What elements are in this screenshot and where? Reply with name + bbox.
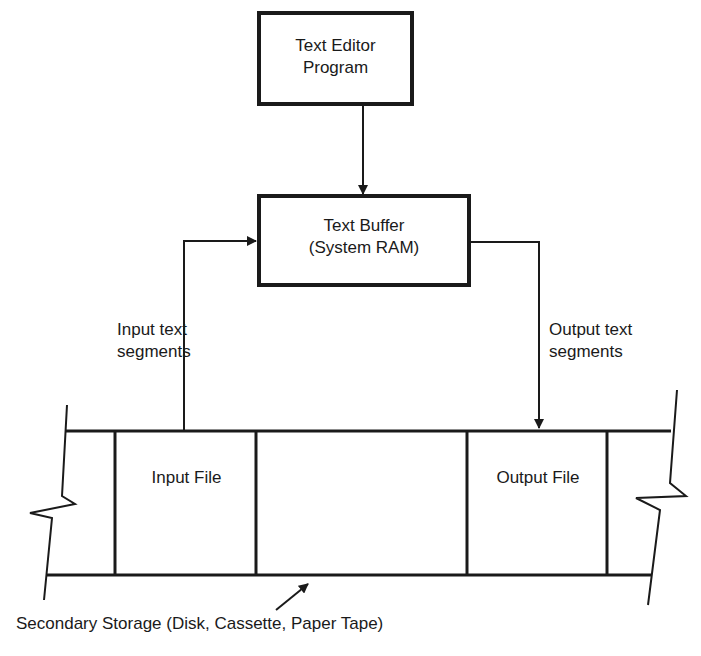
input-segments-line2: segments <box>117 341 191 363</box>
storage-pointer-arrow <box>276 584 308 610</box>
input-segments-arrow <box>184 241 256 430</box>
output-segments-arrow <box>469 242 539 428</box>
output-file-label: Output File <box>469 467 607 489</box>
buffer-label-line1: Text Buffer <box>259 215 469 237</box>
output-segments-line2: segments <box>549 341 632 363</box>
output-segments-label: Output text segments <box>549 319 632 363</box>
output-segments-line1: Output text <box>549 319 632 341</box>
right-break-mark <box>636 390 686 605</box>
input-segments-line1: Input text <box>117 319 191 341</box>
left-break-mark <box>30 405 75 600</box>
input-file-label: Input File <box>117 467 256 489</box>
editor-node-label: Text Editor Program <box>259 35 412 79</box>
input-segments-label: Input text segments <box>117 319 191 363</box>
editor-label-line1: Text Editor <box>259 35 412 57</box>
editor-label-line2: Program <box>259 57 412 79</box>
storage-caption: Secondary Storage (Disk, Cassette, Paper… <box>16 613 383 635</box>
buffer-node-label: Text Buffer (System RAM) <box>259 215 469 259</box>
buffer-label-line2: (System RAM) <box>259 237 469 259</box>
